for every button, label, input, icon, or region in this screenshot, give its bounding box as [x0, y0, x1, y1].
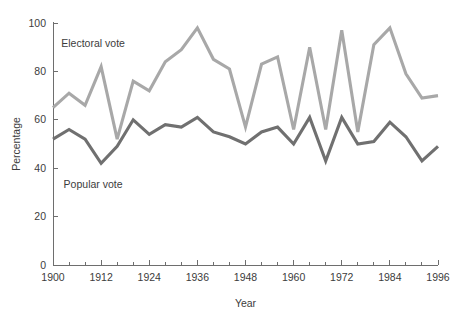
series-annotations: Electoral votePopular vote [61, 37, 125, 189]
x-tick-label: 1972 [330, 271, 354, 283]
x-tick-label: 1996 [426, 271, 450, 283]
y-tick-label: 80 [34, 65, 46, 77]
x-axis-title: Year [235, 297, 257, 309]
y-tick-label: 20 [34, 210, 46, 222]
x-tick-label: 1912 [89, 271, 113, 283]
series-label-popular-vote: Popular vote [64, 178, 123, 190]
x-tick-label: 1936 [186, 271, 210, 283]
y-tick-label: 0 [40, 259, 46, 271]
x-tick-label: 1900 [41, 271, 65, 283]
y-axis-title: Percentage [10, 117, 22, 171]
series-label-electoral-vote: Electoral vote [61, 37, 125, 49]
line-chart: 020406080100 190019121924193619481960197… [0, 0, 466, 323]
y-tick-label: 40 [34, 162, 46, 174]
x-axis-tick-labels: 190019121924193619481960197219841996 [41, 271, 450, 283]
x-tick-label: 1984 [378, 271, 402, 283]
x-tick-label: 1948 [234, 271, 258, 283]
x-tick-label: 1924 [138, 271, 162, 283]
x-axis-ticks [53, 260, 438, 265]
y-axis-tick-labels: 020406080100 [28, 17, 46, 271]
y-tick-label: 100 [28, 17, 46, 29]
y-tick-label: 60 [34, 113, 46, 125]
y-axis-ticks [53, 23, 58, 265]
chart-container: 020406080100 190019121924193619481960197… [0, 0, 466, 323]
x-tick-label: 1960 [282, 271, 306, 283]
